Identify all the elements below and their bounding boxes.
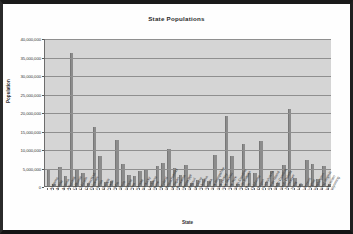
y-axis-tick-group: 40,000,00035,000,00030,000,00025,000,000… <box>3 39 44 189</box>
y-axis-tick-label: 0 <box>39 185 41 190</box>
x-axis-tick-mark <box>139 188 140 190</box>
x-axis-tick-mark <box>144 188 145 190</box>
x-axis-tick-mark <box>116 188 117 190</box>
x-axis-tick-mark <box>299 188 300 190</box>
y-axis-tick-label: 30,000,000 <box>20 74 41 79</box>
screenshot-frame: State Populations Population 40,000,0003… <box>0 0 353 234</box>
x-axis-tick-group: AlabamaAlaskaArizonaArkansasCaliforniaCo… <box>44 188 331 220</box>
x-axis-tick-mark <box>167 188 168 190</box>
x-axis-tick-mark <box>322 188 323 190</box>
y-axis-tick-label: 20,000,000 <box>20 111 41 116</box>
x-axis-tick-mark <box>58 188 59 190</box>
x-axis-tick-mark <box>213 188 214 190</box>
x-axis-tick-mark <box>190 188 191 190</box>
x-axis-tick-mark <box>208 188 209 190</box>
bar[interactable] <box>115 140 119 186</box>
gridline <box>45 76 331 77</box>
x-axis-tick-mark <box>76 188 77 190</box>
gridline <box>45 113 331 114</box>
bar[interactable] <box>70 53 74 186</box>
y-axis-tick-label: 40,000,000 <box>20 37 41 42</box>
y-axis-tick-label: 5,000,000 <box>23 166 41 171</box>
x-axis-tick-mark <box>53 188 54 190</box>
x-axis-title: State <box>44 220 331 225</box>
x-axis-tick-label: Wyoming <box>330 189 334 191</box>
gridline <box>45 132 331 133</box>
x-axis-tick-mark <box>276 188 277 190</box>
plot-area <box>44 39 331 187</box>
x-axis-tick-mark <box>231 188 232 190</box>
x-axis-tick-mark <box>317 188 318 190</box>
x-axis-tick-mark <box>121 188 122 190</box>
x-axis-tick-mark <box>254 188 255 190</box>
gridline <box>45 150 331 151</box>
y-axis-tick-label: 25,000,000 <box>20 92 41 97</box>
y-axis-tick-label: 10,000,000 <box>20 148 41 153</box>
x-axis-tick-mark <box>99 188 100 190</box>
x-axis-tick-mark <box>294 188 295 190</box>
x-axis-tick-mark <box>271 188 272 190</box>
y-axis-tick-label: 15,000,000 <box>20 129 41 134</box>
chart-canvas: State Populations Population 40,000,0003… <box>3 4 350 230</box>
bar[interactable] <box>47 170 51 186</box>
x-axis-tick-mark <box>162 188 163 190</box>
gridline <box>45 58 331 59</box>
gridline <box>45 95 331 96</box>
x-axis-tick-mark <box>185 188 186 190</box>
chart-title: State Populations <box>3 15 350 22</box>
gridline <box>45 39 331 40</box>
x-axis-tick-mark <box>81 188 82 190</box>
y-axis-tick-label: 35,000,000 <box>20 55 41 60</box>
